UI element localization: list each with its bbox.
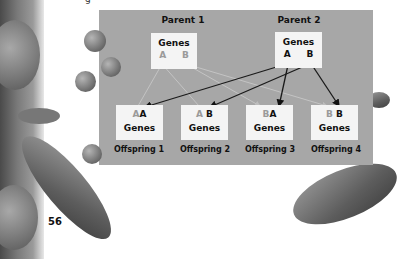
parent-2-label: Parent 2	[277, 15, 320, 25]
allele-b: B	[306, 49, 313, 59]
offspring-3-alleles: BA	[246, 109, 293, 119]
offspring-2-genes-box: A B Genes	[181, 105, 228, 140]
allele-from-parent-2: B	[206, 109, 213, 119]
genes-label: Genes	[246, 123, 293, 133]
allele-from-parent-2: A	[269, 109, 276, 119]
allele-from-parent-2: A	[140, 109, 147, 119]
offspring-4-alleles: B B	[311, 109, 358, 119]
page-number: 56	[48, 216, 62, 227]
parent-1-label: Parent 1	[161, 15, 204, 25]
offspring-3-label: Offspring 3	[245, 145, 295, 154]
parent-1-alleles: A B	[151, 50, 197, 60]
offspring-1-genes-box: AA Genes	[116, 105, 163, 140]
allele-a: A	[284, 49, 291, 59]
offspring-3-genes-box: BA Genes	[246, 105, 293, 140]
offspring-1-label: Offspring 1	[114, 145, 164, 154]
parent-2-genes-box: Genes A B	[275, 32, 322, 68]
genes-label: Genes	[275, 37, 322, 47]
allele-from-parent-1: A	[133, 109, 140, 119]
allele-b: B	[182, 50, 189, 60]
genes-label: Genes	[181, 123, 228, 133]
offspring-1-alleles: AA	[116, 109, 163, 119]
genes-label: Genes	[311, 123, 358, 133]
offspring-2-alleles: A B	[181, 109, 228, 119]
parent-1-genes-box: Genes A B	[151, 33, 197, 69]
allele-a: A	[159, 50, 166, 60]
allele-from-parent-2: B	[336, 109, 343, 119]
genes-label: Genes	[151, 38, 197, 48]
offspring-2-label: Offspring 2	[180, 145, 230, 154]
parent-2-alleles: A B	[275, 49, 322, 59]
allele-from-parent-1: B	[326, 109, 333, 119]
genes-label: Genes	[116, 123, 163, 133]
allele-from-parent-1: A	[196, 109, 203, 119]
offspring-4-genes-box: B B Genes	[311, 105, 358, 140]
offspring-4-label: Offspring 4	[311, 145, 361, 154]
